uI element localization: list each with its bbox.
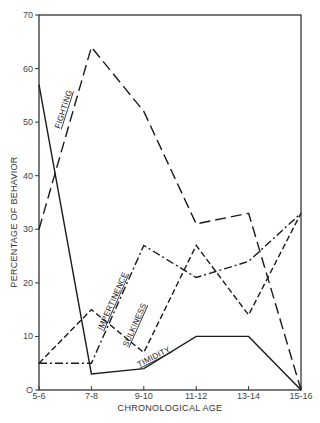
y-tick-label: 40 [23, 171, 33, 181]
series-lines [39, 47, 301, 390]
series-label-impertinence: IMPERTINENCE [96, 271, 130, 332]
x-tick-label: 15-16 [289, 391, 312, 401]
y-tick-label: 30 [23, 224, 33, 234]
x-tick-label: 13-14 [237, 391, 260, 401]
x-axis-title: CHRONOLOGICAL AGE [118, 403, 223, 413]
y-tick-label: 70 [23, 10, 33, 20]
series-label-sulkiness: SULKINESS [121, 302, 148, 348]
y-tick-label: 10 [23, 331, 33, 341]
series-fighting-line [39, 47, 301, 390]
y-axis-ticks: O10203040506070 [23, 10, 39, 395]
y-tick-label: 20 [23, 278, 33, 288]
y-tick-label: 50 [23, 117, 33, 127]
line-chart: O10203040506070 5-67-89-1011-1213-1415-1… [0, 0, 320, 423]
x-tick-label: 9-10 [135, 391, 153, 401]
y-tick-label: 60 [23, 64, 33, 74]
y-axis-title: PERCENTAGE OF BEHAVIOR [9, 156, 19, 287]
series-timidity-line [39, 85, 301, 390]
x-tick-label: 5-6 [32, 391, 45, 401]
plot-frame [39, 15, 301, 390]
series-label-fighting: FIGHTING [53, 89, 74, 130]
x-axis-ticks: 5-67-89-1011-1213-1415-16 [32, 386, 312, 401]
series-label-timidity: TIMIDITY [136, 344, 172, 368]
x-tick-label: 11-12 [185, 391, 207, 401]
series-sulkiness-line [39, 213, 301, 363]
x-tick-label: 7-8 [85, 391, 98, 401]
